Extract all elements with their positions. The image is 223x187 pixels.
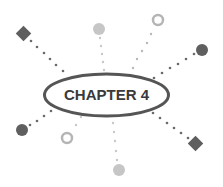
connector-top-right — [132, 33, 152, 69]
ring-top-right-icon — [153, 15, 163, 25]
chapter-title: CHAPTER 4 — [64, 86, 150, 103]
chapter-diagram: CHAPTER 4 — [0, 0, 223, 187]
ring-bottom-left-icon — [62, 133, 72, 143]
circle-right-icon — [196, 44, 208, 56]
circle-top-icon — [93, 23, 105, 35]
diamond-bottom-right-icon — [188, 136, 204, 152]
diagram-canvas: CHAPTER 4 — [0, 0, 223, 187]
connector-bottom-right — [152, 112, 190, 140]
circle-bottom-icon — [113, 164, 125, 176]
circle-left-icon — [16, 124, 28, 136]
connector-top-left — [30, 40, 65, 73]
connector-bottom-left — [75, 116, 82, 126]
connector-bottom — [112, 122, 118, 161]
diamond-top-left-icon — [16, 26, 32, 42]
connector-left — [29, 110, 53, 127]
connector-top — [99, 37, 105, 71]
connector-right — [153, 53, 196, 80]
